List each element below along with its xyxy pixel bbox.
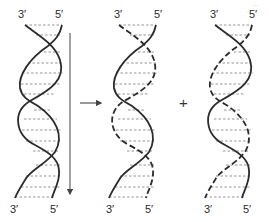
daughter-helix-1: [109, 25, 157, 198]
daughter2-bottom-5prime-label: 5′: [243, 204, 251, 215]
daughter2-top-5prime-label: 5′: [249, 9, 257, 20]
strand-a-old: [208, 25, 251, 198]
parent-bottom-5prime-label: 5′: [50, 204, 58, 215]
daughter1-bottom-3prime-label: 3′: [106, 204, 114, 215]
parent-bottom-3prime-label: 3′: [10, 204, 18, 215]
daughter1-bottom-5prime-label: 5′: [145, 204, 153, 215]
daughter2-top-3prime-label: 3′: [210, 9, 218, 20]
dna-replication-diagram: [0, 0, 269, 222]
daughter1-top-5prime-label: 5′: [154, 9, 162, 20]
strand-a: [18, 25, 61, 198]
parent-top-5prime-label: 5′: [55, 9, 63, 20]
plus-operator: +: [179, 95, 188, 110]
daughter2-bottom-3prime-label: 3′: [204, 204, 212, 215]
page-mark: ...: [253, 1, 258, 7]
daughter-helix-2: [205, 25, 253, 198]
strand-a-new: [112, 25, 155, 198]
daughter1-top-3prime-label: 3′: [114, 9, 122, 20]
parent-top-3prime-label: 3′: [18, 9, 26, 20]
parent-helix: [15, 25, 70, 198]
